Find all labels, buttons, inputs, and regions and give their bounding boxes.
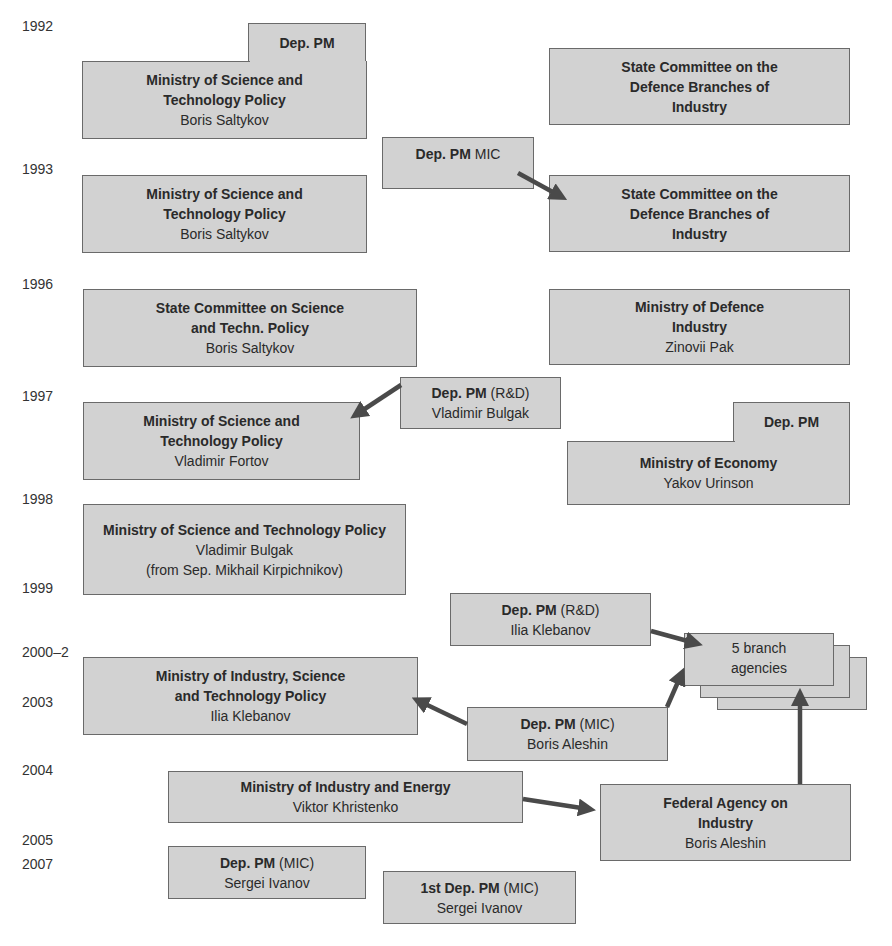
dep-pm-label: Dep. PM	[279, 35, 334, 51]
dep-pm-mic-1993-box: Dep. PM MIC	[382, 137, 534, 189]
arrow-ministry-energy-to-federal-agency	[523, 799, 588, 809]
box-title: Ministry of Science and	[146, 184, 302, 204]
year-label-1993: 1993	[22, 161, 53, 177]
first-dep-pm-mic-2007-box: 1st Dep. PM (MIC) Sergei Ivanov	[383, 871, 576, 924]
box-title: Ministry of Economy	[640, 453, 778, 473]
dep-pm-label: 1st Dep. PM	[420, 880, 499, 896]
dep-pm-mic-2005-box: Dep. PM (MIC) Sergei Ivanov	[168, 846, 366, 899]
portfolio-label: (R&D)	[557, 602, 600, 618]
box-person: Yakov Urinson	[663, 473, 753, 493]
box-title: Ministry of Science and	[143, 411, 299, 431]
year-label-2003: 2003	[22, 694, 53, 710]
federal-agency-industry-box: Federal Agency on Industry Boris Aleshin	[600, 784, 851, 861]
dep-pm-mic-2003-box: Dep. PM (MIC) Boris Aleshin	[467, 707, 668, 761]
ministry-economy-1997-box: Ministry of Economy Yakov Urinson	[567, 441, 850, 505]
state-committee-science-1996-box: State Committee on Science and Techn. Po…	[83, 289, 417, 367]
dep-pm-label: Dep. PM	[220, 855, 275, 871]
portfolio-label: (MIC)	[275, 855, 314, 871]
box-title: Ministry of Industry, Science	[156, 666, 346, 686]
box-title: Ministry of Industry and Energy	[240, 777, 450, 797]
box-title: Ministry of Defence	[635, 297, 764, 317]
box-title: Defence Branches of	[630, 204, 769, 224]
year-label-2007: 2007	[22, 856, 53, 872]
year-label-2000-2: 2000–2	[22, 644, 69, 660]
box-title: and Techn. Policy	[191, 318, 309, 338]
year-label-2005: 2005	[22, 832, 53, 848]
box-person: Vladimir Bulgak	[432, 403, 529, 423]
dep-pm-label: Dep. PM	[764, 414, 819, 430]
dep-pm-rd-2000-box: Dep. PM (R&D) Ilia Klebanov	[450, 593, 651, 646]
box-person: Vladimir Fortov	[174, 451, 268, 471]
box-title: Technology Policy	[160, 431, 283, 451]
arrow-depm-mic-to-branch-agencies	[667, 675, 681, 707]
box-person: Boris Saltykov	[180, 224, 269, 244]
box-person: Sergei Ivanov	[437, 898, 523, 918]
box-person: Ilia Klebanov	[210, 706, 290, 726]
year-label-1999: 1999	[22, 580, 53, 596]
box-note: (from Sep. Mikhail Kirpichnikov)	[146, 560, 343, 580]
ministry-science-tech-1992-box: Ministry of Science and Technology Polic…	[82, 61, 367, 139]
year-label-1998: 1998	[22, 491, 53, 507]
box-title: Industry	[698, 813, 753, 833]
ministry-science-tech-1998-box: Ministry of Science and Technology Polic…	[83, 504, 406, 595]
box-title: State Committee on the	[621, 57, 777, 77]
box-title: Industry	[672, 224, 727, 244]
box-person: Sergei Ivanov	[224, 873, 310, 893]
box-title: Industry	[672, 317, 727, 337]
year-label-2004: 2004	[22, 762, 53, 778]
arrow-depm-mic-to-ministry-industry	[419, 701, 467, 724]
dep-pm-label: Dep. PM	[416, 146, 471, 162]
box-label: agencies	[731, 658, 787, 678]
year-label-1996: 1996	[22, 276, 53, 292]
portfolio-label: (MIC)	[576, 716, 615, 732]
box-person: Boris Saltykov	[206, 338, 295, 358]
arrow-depm-rd-to-ministry-1997	[357, 385, 401, 414]
box-title: Industry	[672, 97, 727, 117]
ministry-industry-science-tech-box: Ministry of Industry, Science and Techno…	[83, 657, 418, 735]
box-title: Ministry of Science and Technology Polic…	[103, 520, 386, 540]
box-person: Boris Saltykov	[180, 110, 269, 130]
box-person: Zinovii Pak	[665, 337, 733, 357]
state-committee-defence-1992-box: State Committee on the Defence Branches …	[549, 48, 850, 125]
box-title: Technology Policy	[163, 90, 286, 110]
box-label: 5 branch	[732, 638, 786, 658]
box-person: Viktor Khristenko	[293, 797, 399, 817]
box-title: State Committee on the	[621, 184, 777, 204]
branch-agencies-box: 5 branch agencies	[684, 633, 834, 686]
ministry-science-tech-1993-box: Ministry of Science and Technology Polic…	[82, 175, 367, 253]
year-label-1997: 1997	[22, 388, 53, 404]
portfolio-label: (MIC)	[500, 880, 539, 896]
ministry-science-tech-1997-box: Ministry of Science and Technology Polic…	[83, 402, 360, 480]
box-title: Technology Policy	[163, 204, 286, 224]
box-title: Federal Agency on	[663, 793, 788, 813]
economy-top-border-left	[567, 441, 735, 442]
dep-pm-label: Dep. PM	[501, 602, 556, 618]
ministry-top-border-left	[82, 61, 250, 62]
ministry-defence-industry-1996-box: Ministry of Defence Industry Zinovii Pak	[549, 289, 850, 365]
box-title: Ministry of Science and	[146, 70, 302, 90]
dep-pm-1992-box: Dep. PM	[248, 23, 366, 63]
dep-pm-label: Dep. PM	[431, 385, 486, 401]
dep-pm-rd-1997-box: Dep. PM (R&D) Vladimir Bulgak	[400, 377, 561, 429]
box-person: Boris Aleshin	[527, 734, 608, 754]
ministry-industry-energy-box: Ministry of Industry and Energy Viktor K…	[168, 771, 523, 823]
dep-pm-economy-1997-box: Dep. PM	[733, 402, 850, 442]
box-person: Ilia Klebanov	[510, 620, 590, 640]
dep-pm-label: Dep. PM	[520, 716, 575, 732]
portfolio-label: MIC	[471, 146, 501, 162]
box-person: Vladimir Bulgak	[196, 540, 293, 560]
box-person: Boris Aleshin	[685, 833, 766, 853]
box-title: State Committee on Science	[156, 298, 344, 318]
box-title: and Technology Policy	[175, 686, 326, 706]
year-label-1992: 1992	[22, 18, 53, 34]
box-title: Defence Branches of	[630, 77, 769, 97]
portfolio-label: (R&D)	[487, 385, 530, 401]
state-committee-defence-1993-box: State Committee on the Defence Branches …	[549, 175, 850, 252]
